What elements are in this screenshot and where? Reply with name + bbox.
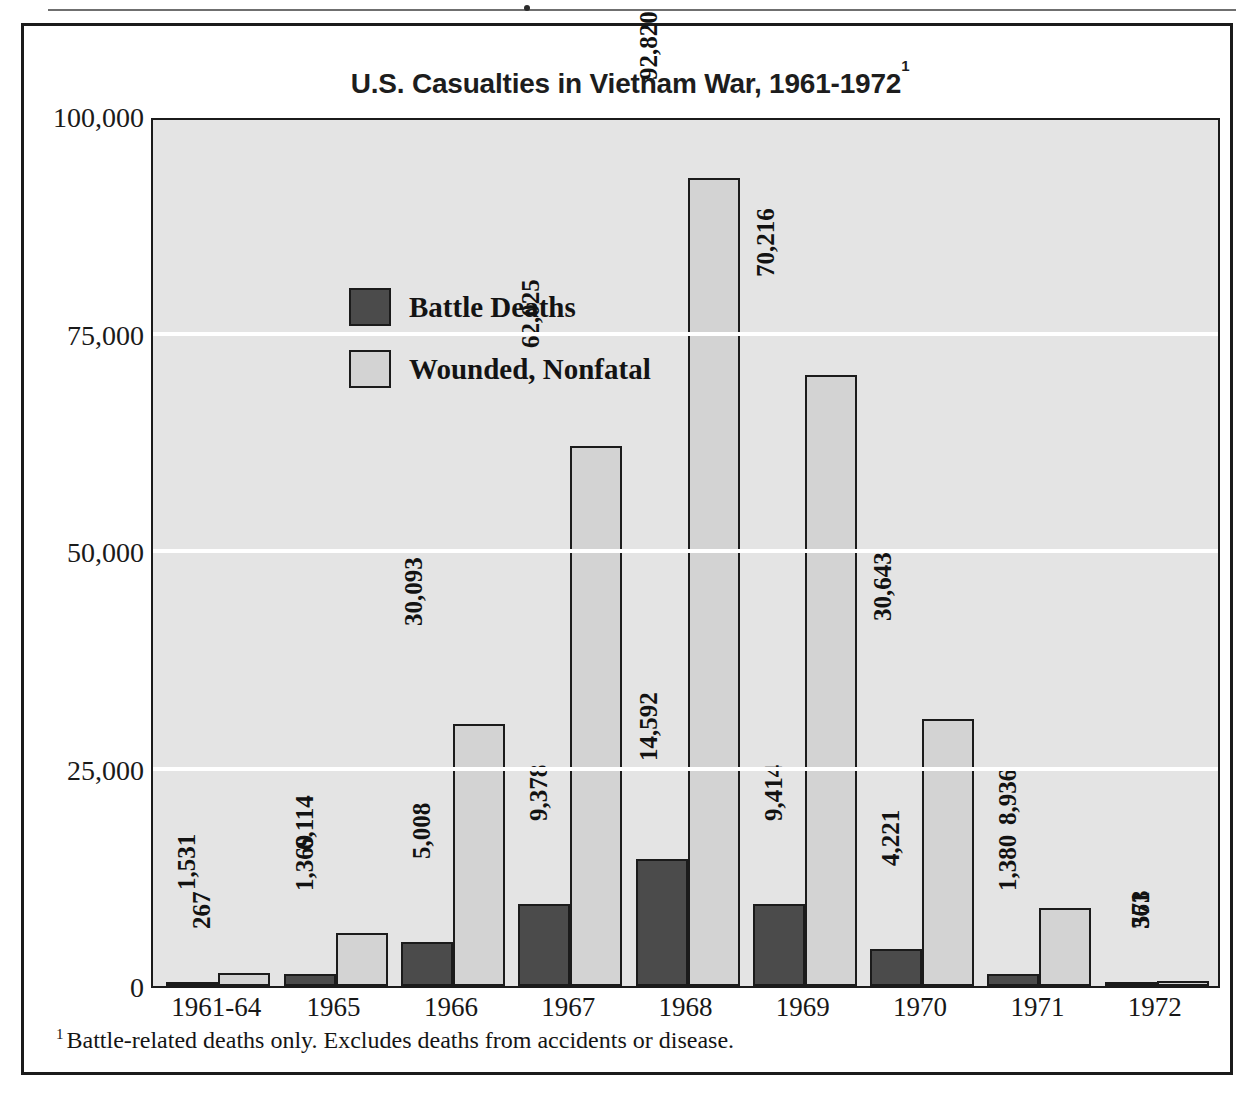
x-axis-tick-1965: 1965 xyxy=(307,992,361,1023)
chart-title: U.S. Casualties in Vietnam War, 1961-197… xyxy=(24,68,1236,100)
x-axis-tick-1966: 1966 xyxy=(424,992,478,1023)
chart-frame: U.S. Casualties in Vietnam War, 1961-197… xyxy=(21,23,1233,1075)
bar-battle-deaths[interactable] xyxy=(1105,982,1157,986)
bar-wounded-nonfatal[interactable] xyxy=(805,375,857,986)
plot-wrapper: 2671,5311,3696,1145,00830,0939,37862,025… xyxy=(151,118,1220,988)
legend-item: Wounded, Nonfatal xyxy=(349,349,651,389)
x-axis-tick-1969: 1969 xyxy=(776,992,830,1023)
bar-battle-deaths[interactable] xyxy=(753,904,805,986)
bar-wounded-nonfatal[interactable] xyxy=(336,933,388,986)
bar-wounded-nonfatal[interactable] xyxy=(1039,908,1091,986)
bar-group: 2671,531 xyxy=(166,120,270,986)
footnote-text: Battle-related deaths only. Excludes dea… xyxy=(67,1027,735,1053)
gridline-50000 xyxy=(153,549,1218,553)
y-axis-tick-75000: 75,000 xyxy=(67,320,144,352)
chart-footnote: 1Battle-related deaths only. Excludes de… xyxy=(56,1026,734,1054)
bar-group: 14,59292,820 xyxy=(636,120,740,986)
bar-wounded-nonfatal[interactable] xyxy=(570,446,622,986)
bar-group: 9,41470,216 xyxy=(753,120,857,986)
gridline-75000 xyxy=(153,332,1218,336)
bar-wounded-nonfatal[interactable] xyxy=(688,178,740,986)
legend-item: Battle Deaths xyxy=(349,287,651,327)
chart-title-footnote-marker: 1 xyxy=(901,57,909,74)
bar-wounded-nonfatal[interactable] xyxy=(453,724,505,986)
y-axis-tick-25000: 25,000 xyxy=(67,755,144,787)
bar-battle-deaths[interactable] xyxy=(401,942,453,986)
bar-wounded-nonfatal[interactable] xyxy=(218,973,270,986)
y-axis-tick-50000: 50,000 xyxy=(67,537,144,569)
bar-battle-deaths[interactable] xyxy=(166,982,218,986)
bar-group: 5,00830,093 xyxy=(401,120,505,986)
x-axis-tick-1970: 1970 xyxy=(893,992,947,1023)
bar-group: 4,22130,643 xyxy=(870,120,974,986)
x-axis-tick-1968: 1968 xyxy=(659,992,713,1023)
y-axis-tick-0: 0 xyxy=(130,972,144,1004)
legend-label: Wounded, Nonfatal xyxy=(409,353,651,386)
figure-page: U.S. Casualties in Vietnam War, 1961-197… xyxy=(0,0,1255,1099)
bar-group: 1,3808,936 xyxy=(987,120,1091,986)
bar-battle-deaths[interactable] xyxy=(987,974,1039,986)
bar-battle-deaths[interactable] xyxy=(870,949,922,986)
page-header-mark xyxy=(524,5,530,11)
chart-legend: Battle DeathsWounded, Nonfatal xyxy=(349,287,651,411)
bar-battle-deaths[interactable] xyxy=(518,904,570,986)
x-axis-tick-1961-64: 1961-64 xyxy=(171,992,261,1023)
gridline-25000 xyxy=(153,767,1218,771)
bar-group: 9,37862,025 xyxy=(518,120,622,986)
bar-battle-deaths[interactable] xyxy=(284,974,336,986)
y-axis-tick-100000: 100,000 xyxy=(53,102,144,134)
plot-area: 2671,5311,3696,1145,00830,0939,37862,025… xyxy=(151,118,1220,988)
bar-wounded-nonfatal[interactable] xyxy=(1157,981,1209,986)
bars-container: 2671,5311,3696,1145,00830,0939,37862,025… xyxy=(153,120,1218,986)
legend-swatch-wounded-nonfatal xyxy=(349,350,391,388)
chart-title-text: U.S. Casualties in Vietnam War, 1961-197… xyxy=(351,68,902,99)
bar-group: 361573 xyxy=(1105,120,1209,986)
bar-battle-deaths[interactable] xyxy=(636,859,688,986)
x-axis-tick-1967: 1967 xyxy=(541,992,595,1023)
legend-label: Battle Deaths xyxy=(409,291,576,324)
x-axis-tick-1972: 1972 xyxy=(1128,992,1182,1023)
footnote-marker: 1 xyxy=(56,1026,64,1042)
bar-wounded-nonfatal[interactable] xyxy=(922,719,974,986)
x-axis-tick-1971: 1971 xyxy=(1010,992,1064,1023)
legend-swatch-battle-deaths xyxy=(349,288,391,326)
bar-group: 1,3696,114 xyxy=(284,120,388,986)
